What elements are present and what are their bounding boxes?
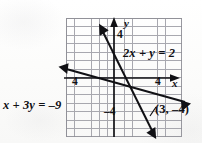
y-axis-label: y — [124, 18, 129, 29]
equation-label-line-1: 2x + y = 2 — [123, 47, 175, 60]
x-axis-label: x — [172, 78, 178, 89]
y-axis-tick-label-negative: –4 — [104, 106, 116, 118]
x-axis-tick-label-positive: 4 — [155, 76, 161, 88]
annotation-leader-layer — [0, 0, 202, 143]
equation-label-line-2: x + 3y = –9 — [3, 99, 61, 112]
figure-canvas: 2x + y = 2 x + 3y = –9 (3, –4) y x 4 –4 … — [0, 0, 202, 143]
intersection-point-label: (3, –4) — [155, 103, 189, 116]
x-axis-tick-label-negative: 4 — [72, 76, 78, 88]
y-axis-tick-label-positive: 4 — [117, 29, 123, 41]
